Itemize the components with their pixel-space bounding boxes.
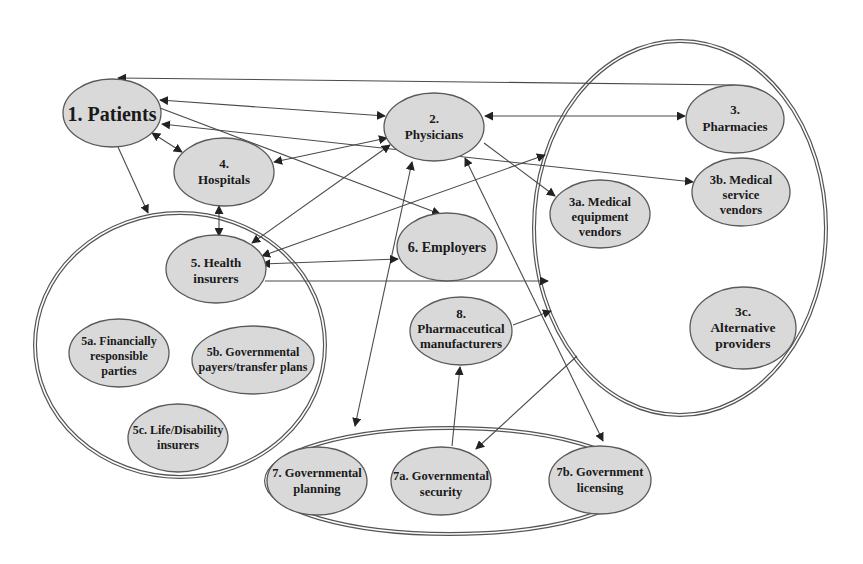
node-life-disability-insurers[interactable]: 5c. Life/Disabilityinsurers <box>128 404 228 472</box>
node-government-licensing[interactable]: 7b. Governmentlicensing <box>549 446 651 514</box>
node-label: 1. Patients <box>68 103 157 125</box>
edge-physicians-equipment <box>484 143 555 196</box>
node-hospitals[interactable]: 4.Hospitals <box>174 138 274 206</box>
edge-insurers-employers <box>262 259 398 264</box>
node-alternative-providers[interactable]: 3c.Alternativeproviders <box>690 287 796 369</box>
node-medical-service-vendors[interactable]: 3b. Medicalservicevendors <box>692 158 790 226</box>
edge-govsecurity-pharma <box>452 367 460 446</box>
edge-physicians-insurers <box>252 145 390 243</box>
edge-patients-physicians <box>160 100 385 116</box>
edge-physicians-hospitals <box>274 138 387 162</box>
node-governmental-planning[interactable]: 7. Governmentalplanning <box>267 447 367 515</box>
node-pharmacies[interactable]: 3.Pharmacies <box>686 85 784 153</box>
svg-text:6. Employers: 6. Employers <box>408 240 487 255</box>
node-medical-equipment-vendors[interactable]: 3a. Medicalequipmentvendors <box>550 180 650 248</box>
node-health-insurers[interactable]: 5. Healthinsurers <box>166 235 266 303</box>
node-governmental-security[interactable]: 7a. Governmentalsecurity <box>391 447 491 515</box>
node-governmental-payers[interactable]: 5b. Governmentalpayers/transfer plans <box>192 326 314 394</box>
node-employers[interactable]: 6. Employers <box>397 213 497 281</box>
svg-text:1. Patients: 1. Patients <box>68 103 157 125</box>
edge-pharmacies-patients <box>118 78 735 85</box>
svg-text:5b. Governmentalpayers/transfe: 5b. Governmentalpayers/transfer plans <box>199 345 308 374</box>
node-patients[interactable]: 1. Patients <box>63 79 161 147</box>
edge-patients-payers <box>118 147 148 213</box>
edge-physicians-govplanning <box>355 162 412 426</box>
svg-text:5. Healthinsurers: 5. Healthinsurers <box>191 255 242 286</box>
stakeholder-diagram: 1. Patients 2.Physicians 3.Pharmacies 3a… <box>0 0 863 564</box>
edge-patients-hospitals <box>152 133 182 152</box>
node-financially-responsible-parties[interactable]: 5a. Financiallyresponsibleparties <box>69 319 169 387</box>
node-pharmaceutical-manufacturers[interactable]: 8.Pharmaceuticalmanufacturers <box>410 297 512 365</box>
edge-group3-govsecurity <box>476 356 577 449</box>
node-physicians[interactable]: 2.Physicians <box>384 93 484 161</box>
